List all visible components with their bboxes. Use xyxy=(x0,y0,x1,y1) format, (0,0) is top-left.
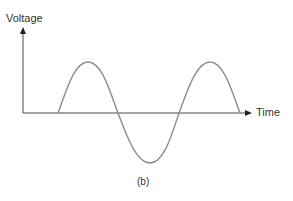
y-axis-arrow-icon xyxy=(20,27,26,34)
x-axis-arrow-icon xyxy=(245,110,252,116)
voltage-time-diagram xyxy=(0,0,293,201)
figure-caption: (b) xyxy=(137,176,149,187)
y-axis-label: Voltage xyxy=(6,12,43,24)
x-axis-label: Time xyxy=(256,106,280,118)
